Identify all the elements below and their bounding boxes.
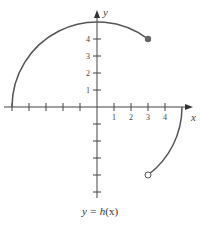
y-tick-label-1: 1 — [86, 86, 90, 95]
x-axis-arrow-icon — [185, 104, 193, 110]
graph-caption: y = h(x) — [0, 205, 200, 217]
caption-prefix: y = — [82, 205, 100, 217]
filled-endpoint — [145, 36, 151, 42]
x-tick-label-4: 4 — [163, 113, 167, 122]
y-axis-label: y — [102, 6, 108, 18]
x-tick-label-3: 3 — [146, 113, 150, 122]
caption-arg: (x) — [105, 205, 118, 217]
y-axis-arrow-icon — [94, 10, 100, 18]
open-endpoint — [145, 172, 151, 178]
y-tick-label-3: 3 — [86, 52, 90, 61]
x-tick-label-2: 2 — [129, 113, 133, 122]
upper-arc — [12, 22, 148, 107]
y-tick-label-4: 4 — [86, 35, 90, 44]
y-tick-label-2: 2 — [86, 69, 90, 78]
graph: 1 2 3 4 1 2 3 4 x y — [0, 0, 200, 226]
x-tick-label-1: 1 — [112, 113, 116, 122]
x-axis-label: x — [190, 111, 196, 123]
